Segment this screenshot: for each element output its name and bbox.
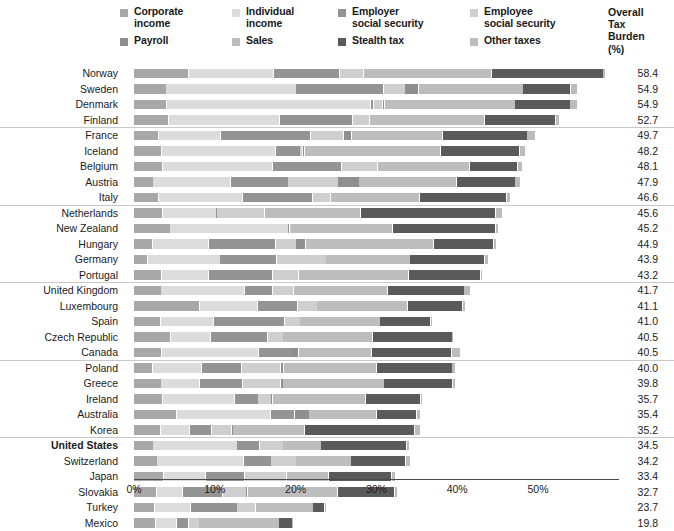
legend-item-individual_income[interactable]: Individual income [232, 6, 350, 29]
bar-segment[interactable] [134, 162, 162, 172]
bar-segment[interactable] [518, 162, 522, 172]
legend-item-corporate_income[interactable]: Corporate income [120, 6, 238, 29]
bar-segment[interactable] [364, 69, 491, 79]
bar-segment[interactable] [515, 100, 569, 110]
bar-segment[interactable] [163, 208, 216, 218]
bar-segment[interactable] [161, 286, 243, 296]
bar-segment[interactable] [300, 146, 302, 156]
chart-row[interactable]: United States34.5 [0, 438, 674, 454]
bar-segment[interactable] [271, 410, 294, 420]
bar-segment[interactable] [243, 379, 280, 389]
bar-segment[interactable] [153, 239, 209, 249]
bar-segment[interactable] [372, 348, 451, 358]
bar-segment[interactable] [603, 69, 605, 79]
bar-segment[interactable] [570, 100, 576, 110]
bar-segment[interactable] [305, 425, 414, 435]
chart-row[interactable]: Slovakia32.7 [0, 485, 674, 501]
bar-segment[interactable] [134, 301, 199, 311]
bar-segment[interactable] [294, 286, 387, 296]
chart-row[interactable]: Canada40.5 [0, 345, 674, 361]
bar-segment[interactable] [134, 410, 176, 420]
stacked-bar[interactable] [134, 441, 413, 451]
bar-segment[interactable] [190, 425, 211, 435]
bar-segment[interactable] [209, 270, 272, 280]
bar-segment[interactable] [273, 162, 341, 172]
bar-segment[interactable] [352, 131, 442, 141]
bar-segment[interactable] [271, 456, 295, 466]
bar-segment[interactable] [384, 379, 452, 389]
bar-segment[interactable] [237, 503, 255, 513]
bar-segment[interactable] [134, 270, 161, 280]
bar-segment[interactable] [415, 425, 420, 435]
stacked-bar[interactable] [134, 363, 457, 373]
chart-row[interactable]: Netherlands45.6 [0, 206, 674, 222]
bar-segment[interactable] [212, 425, 231, 435]
bar-segment[interactable] [409, 270, 480, 280]
chart-row[interactable]: Denmark54.9 [0, 97, 674, 113]
bar-segment[interactable] [279, 518, 291, 528]
bar-segment[interactable] [191, 503, 237, 513]
chart-row[interactable]: Finland52.7 [0, 113, 674, 129]
bar-segment[interactable] [481, 270, 483, 280]
bar-segment[interactable] [134, 518, 155, 528]
bar-segment[interactable] [291, 224, 392, 234]
stacked-bar[interactable] [134, 456, 410, 466]
bar-segment[interactable] [134, 255, 147, 265]
bar-segment[interactable] [421, 394, 422, 404]
bar-segment[interactable] [148, 255, 220, 265]
stacked-bar[interactable] [134, 84, 578, 94]
bar-segment[interactable] [443, 131, 527, 141]
bar-segment[interactable] [380, 317, 429, 327]
bar-segment[interactable] [373, 332, 451, 342]
chart-row[interactable]: Belgium48.1 [0, 159, 674, 175]
legend-item-sales[interactable]: Sales [232, 35, 350, 47]
stacked-bar[interactable] [134, 177, 521, 187]
bar-segment[interactable] [134, 503, 154, 513]
bar-segment[interactable] [298, 301, 317, 311]
bar-segment[interactable] [162, 270, 208, 280]
stacked-bar[interactable] [134, 69, 606, 79]
bar-segment[interactable] [370, 115, 484, 125]
stacked-bar[interactable] [134, 301, 466, 311]
bar-segment[interactable] [452, 348, 461, 358]
bar-segment[interactable] [161, 379, 199, 389]
bar-segment[interactable] [384, 84, 405, 94]
bar-segment[interactable] [317, 301, 407, 311]
chart-row[interactable]: Greece39.8 [0, 376, 674, 392]
bar-segment[interactable] [202, 363, 242, 373]
stacked-bar[interactable] [134, 193, 511, 203]
chart-row[interactable]: Czech Republic40.5 [0, 330, 674, 346]
stacked-bar[interactable] [134, 348, 461, 358]
bar-segment[interactable] [494, 239, 496, 249]
stacked-bar[interactable] [134, 208, 502, 218]
bar-segment[interactable] [313, 193, 331, 203]
bar-segment[interactable] [383, 100, 385, 110]
bar-segment[interactable] [134, 193, 158, 203]
bar-segment[interactable] [167, 100, 370, 110]
bar-segment[interactable] [457, 177, 514, 187]
bar-segment[interactable] [163, 394, 234, 404]
bar-segment[interactable] [520, 146, 525, 156]
bar-segment[interactable] [485, 115, 555, 125]
bar-segment[interactable] [256, 503, 313, 513]
bar-segment[interactable] [134, 224, 170, 234]
bar-segment[interactable] [153, 441, 236, 451]
chart-row[interactable]: Ireland35.7 [0, 392, 674, 408]
bar-segment[interactable] [265, 208, 360, 218]
bar-segment[interactable] [245, 286, 272, 296]
bar-segment[interactable] [309, 410, 376, 420]
stacked-bar[interactable] [134, 286, 471, 296]
bar-segment[interactable] [134, 394, 162, 404]
bar-segment[interactable] [452, 363, 454, 373]
bar-segment[interactable] [353, 115, 369, 125]
bar-segment[interactable] [288, 177, 337, 187]
bar-segment[interactable] [171, 332, 210, 342]
bar-segment[interactable] [209, 239, 275, 249]
bar-segment[interactable] [200, 379, 242, 389]
bar-segment[interactable] [351, 456, 405, 466]
bar-segment[interactable] [134, 239, 152, 249]
chart-row[interactable]: Iceland48.2 [0, 144, 674, 160]
bar-segment[interactable] [470, 162, 517, 172]
stacked-bar[interactable] [134, 270, 483, 280]
bar-segment[interactable] [571, 84, 577, 94]
